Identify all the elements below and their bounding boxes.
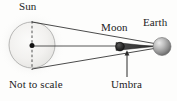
sun-center-dot xyxy=(30,43,35,48)
label-not-to-scale: Not to scale xyxy=(9,79,63,90)
label-umbra: Umbra xyxy=(111,79,142,90)
label-earth: Earth xyxy=(143,17,167,28)
earth-body xyxy=(153,38,171,56)
moon-body xyxy=(116,42,125,51)
label-moon: Moon xyxy=(101,22,128,33)
label-sun: Sun xyxy=(19,1,36,12)
solar-eclipse-diagram: Sun Moon Earth Not to scale Umbra xyxy=(0,0,177,101)
